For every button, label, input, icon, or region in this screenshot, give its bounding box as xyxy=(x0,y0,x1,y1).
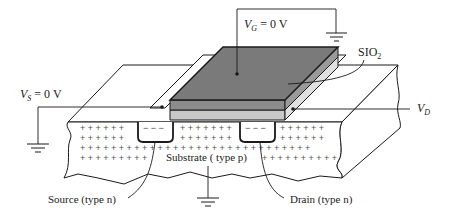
gate-ground-icon xyxy=(326,33,347,41)
svg-text:+ + + + + +: + + + + + + xyxy=(280,123,324,133)
sio2-label: SIO2 xyxy=(358,45,381,61)
source-ground-icon xyxy=(27,144,49,152)
svg-text:+ + + + + +: + + + + + + xyxy=(80,133,124,143)
source-electrons: − − − xyxy=(143,123,164,133)
gate-contact-dot xyxy=(235,72,239,76)
substrate-label: Substrate ( type p) xyxy=(166,151,247,164)
drain-voltage-label: VD xyxy=(417,101,430,117)
svg-text:+ + + + + + + + + +: + + + + + + + + + + xyxy=(262,153,337,163)
svg-text:+ + + + + +: + + + + + + xyxy=(80,123,124,133)
svg-text:+ + + + + + +: + + + + + + + xyxy=(180,133,232,143)
svg-text:+ + + + + + + + +: + + + + + + + + + xyxy=(80,153,147,163)
svg-text:+ + + + + +: + + + + + + xyxy=(280,133,324,143)
drain-contact-dot xyxy=(291,107,295,111)
substrate-ground-icon xyxy=(197,198,219,206)
source-voltage-label: VS = 0 V xyxy=(20,87,62,103)
gate-metal-front xyxy=(170,100,285,110)
drain-electrons: − − − xyxy=(245,123,266,133)
svg-text:+ + + + + + +: + + + + + + + xyxy=(180,123,232,133)
source-contact-dot xyxy=(160,105,164,109)
source-label: Source (type n) xyxy=(48,193,116,206)
drain-label: Drain (type n) xyxy=(290,193,353,206)
gate-voltage-label: VG = 0 V xyxy=(244,17,288,33)
mosfet-diagram: − − − − − − + + + + + + + + + + + + + + … xyxy=(0,0,452,221)
oxide-layer-front xyxy=(170,110,285,120)
